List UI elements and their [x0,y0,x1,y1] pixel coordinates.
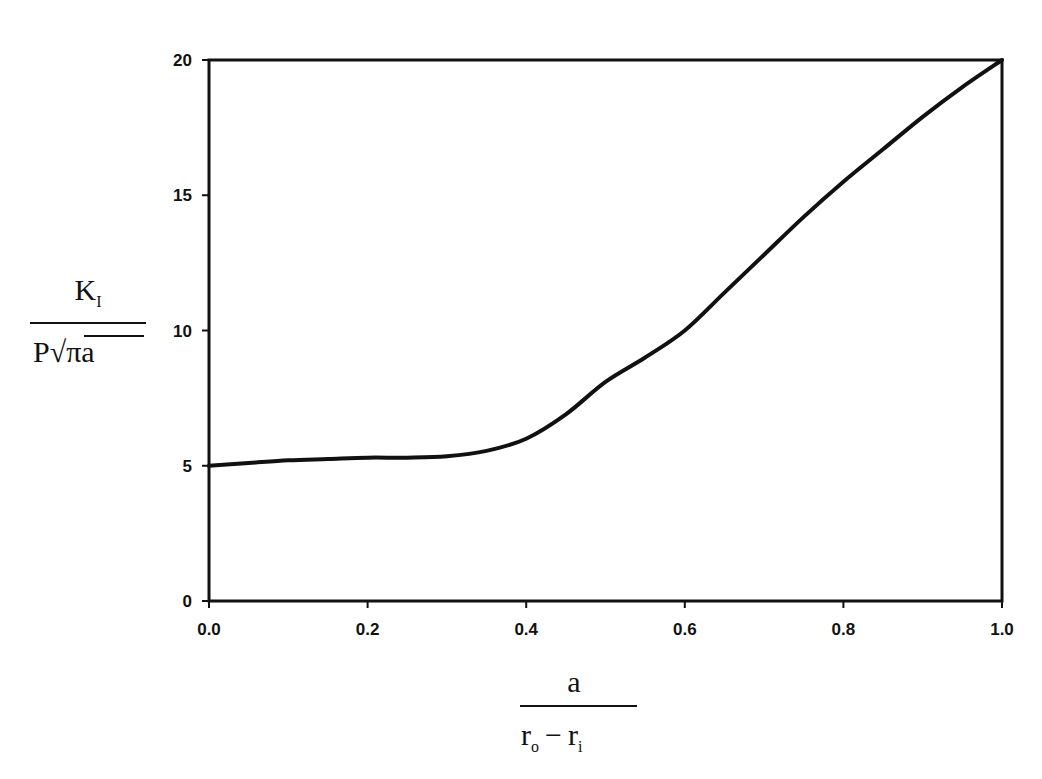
svg-text:a: a [567,665,580,698]
series-line [209,60,1002,466]
y-label-radicand: πa [66,335,94,368]
y-tick-label: 5 [183,457,192,476]
y-tick-label: 15 [173,186,192,205]
series-layer [209,60,1002,466]
svg-text:KI: KI [75,273,102,310]
chart: 0.00.20.40.60.81.0 05101520 KI P√πa a ro… [0,0,1042,779]
y-label-radical: √ [50,335,67,368]
y-tick-label: 20 [173,51,192,70]
svg-text:ro−ri: ro−ri [521,718,583,755]
y-label-numerator-sub: I [96,293,101,310]
y-tick-label: 10 [173,322,192,341]
y-axis-ticks: 05101520 [173,51,209,611]
plot-area-border [209,60,1002,601]
x-label-numerator: a [567,665,580,698]
y-label-denominator-p: P [33,335,50,368]
svg-text:P√πa: P√πa [33,335,95,368]
x-axis-label: a ro−ri [520,665,637,755]
x-tick-label: 0.8 [832,620,856,639]
x-label-den-right-sub: i [578,738,583,755]
y-axis-label: KI P√πa [30,273,146,368]
y-label-numerator: K [75,273,97,306]
x-tick-label: 0.0 [197,620,221,639]
x-tick-label: 1.0 [990,620,1014,639]
x-tick-label: 0.4 [514,620,538,639]
x-tick-label: 0.2 [356,620,380,639]
plot-frame [209,60,1002,601]
x-tick-label: 0.6 [673,620,697,639]
x-label-den-left-sub: o [531,738,539,755]
x-label-minus: − [545,718,562,751]
y-tick-label: 0 [183,592,192,611]
x-axis-ticks: 0.00.20.40.60.81.0 [197,601,1014,639]
x-label-den-left: r [521,718,531,751]
x-label-den-right: r [568,718,578,751]
